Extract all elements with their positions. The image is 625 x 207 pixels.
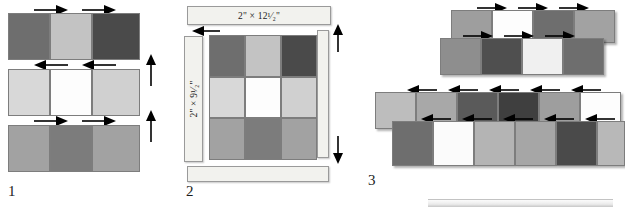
measuring-strip-top: 2" × 12¹⁄₂" — [187, 6, 331, 25]
press-arrow-up-upper — [146, 54, 155, 86]
s3-lower-bottom-square-1 — [392, 121, 433, 166]
s3-upper-bottom-square-3 — [522, 38, 563, 75]
step1-row2-square-1 — [8, 69, 50, 116]
seam-arrow-left-r2a — [34, 60, 68, 69]
s3-lower-bottom-square-2 — [433, 121, 474, 166]
align-arrow-down — [333, 136, 342, 164]
s3-upper-bottom-square-4 — [563, 38, 604, 75]
step2-cell-r2c1 — [209, 77, 245, 118]
seam-arrow-left-r2b — [82, 60, 116, 69]
align-arrow-left — [192, 26, 220, 35]
figure-number-2: 2 — [186, 183, 194, 200]
step2-cell-r1c3 — [281, 35, 317, 77]
figure-number-1: 1 — [8, 183, 16, 200]
diagram-canvas: 1 2" × 12¹⁄₂" 2" × 9¹⁄₂" — [0, 0, 625, 207]
s3-lower-bottom-square-3 — [474, 121, 515, 166]
figure-number-3: 3 — [368, 172, 376, 189]
cropped-next-figure-edge — [428, 199, 613, 207]
step1-row1-square-2 — [50, 13, 92, 60]
step1-row3-square-1 — [8, 125, 50, 172]
s3-lower-bottom-square-5 — [556, 121, 597, 166]
align-arrow-up — [333, 24, 342, 52]
measuring-strip-left: 2" × 9¹⁄₂" — [184, 36, 203, 162]
step2-cell-r2c3 — [281, 77, 317, 118]
step1-row2-square-2 — [50, 69, 92, 116]
s3-upper-bottom-square-2 — [481, 38, 522, 75]
step-2-group: 2" × 12¹⁄₂" 2" × 9¹⁄₂" — [178, 0, 348, 207]
s3-lower-bottom-square-6 — [597, 121, 625, 166]
seam-arrow-right-r3a — [34, 116, 68, 125]
s3-lower-bottom-square-4 — [515, 121, 556, 166]
press-arrow-up-lower — [146, 110, 155, 142]
step1-row1-square-3 — [92, 13, 140, 60]
step1-row1-square-1 — [8, 13, 50, 60]
step1-row3-square-2 — [50, 125, 92, 172]
step2-cell-r2c2 — [245, 77, 281, 118]
s3-upper-bottom-square-1 — [440, 38, 481, 75]
step2-cell-r1c1 — [209, 35, 245, 77]
step2-cell-r3c2 — [245, 118, 281, 160]
measuring-strip-bottom — [187, 166, 329, 182]
step-3-group: 3 — [355, 0, 625, 207]
step2-cell-r1c2 — [245, 35, 281, 77]
step2-cell-r3c3 — [281, 118, 317, 160]
measuring-strip-top-label: 2" × 12¹⁄₂" — [188, 7, 330, 24]
step1-row3-square-3 — [92, 125, 140, 172]
seam-arrow-right-r3b — [82, 116, 116, 125]
step2-cell-r3c1 — [209, 118, 245, 160]
measuring-strip-right — [317, 30, 329, 158]
